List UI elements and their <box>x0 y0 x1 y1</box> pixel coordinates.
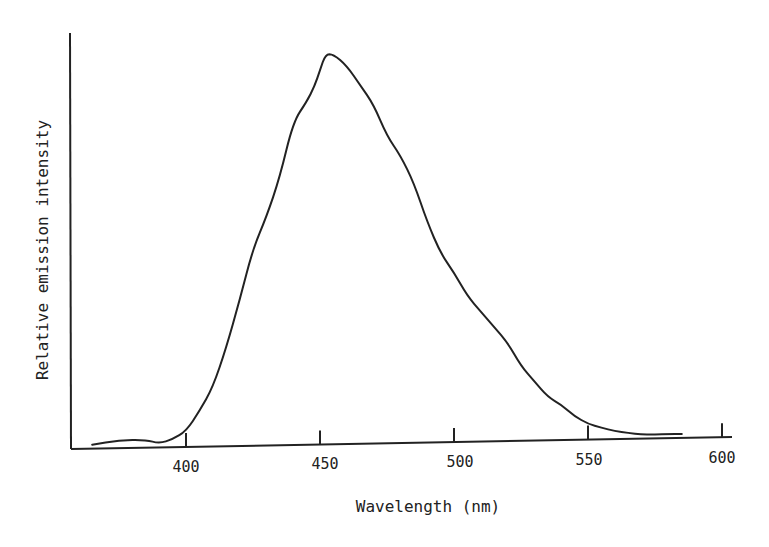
x-tick-label-550: 550 <box>575 451 602 469</box>
x-tick-label-450: 450 <box>311 455 338 473</box>
y-axis-title: Relative emission intensity <box>33 120 52 380</box>
x-tick-label-400: 400 <box>172 458 199 476</box>
emission-spectrum-chart: 400 450 500 550 600 Wavelength (nm) Rela… <box>0 0 769 547</box>
y-axis-line <box>70 33 71 449</box>
x-tick-label-600: 600 <box>708 449 735 467</box>
x-axis-title: Wavelength (nm) <box>356 497 501 516</box>
emission-curve <box>92 54 682 445</box>
x-axis-tick-labels: 400 450 500 550 600 <box>172 449 735 476</box>
x-tick-label-500: 500 <box>446 453 473 471</box>
